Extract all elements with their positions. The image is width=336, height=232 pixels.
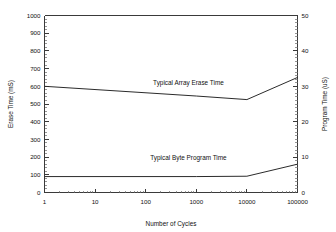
x-tick-label: 10000 [238,198,256,205]
right-tick-label: 30 [302,83,309,90]
left-tick-label: 300 [30,136,41,143]
right-tick-label: 0 [302,189,306,196]
series-annotation-1: Typical Byte Program Time [150,154,227,162]
y-axis-title: Erase Time (mS) [7,80,15,128]
secondary-y-axis-title: Program Time (uS) [321,77,329,131]
chart-background [0,0,336,232]
right-tick-label: 50 [302,12,309,19]
left-tick-label: 700 [30,65,41,72]
right-tick-label: 40 [302,47,309,54]
x-tick-label: 10 [92,198,99,205]
x-tick-label: 100 [141,198,152,205]
left-tick-label: 200 [30,153,41,160]
line-chart: 01002003004005006007008009001000 0102030… [0,0,336,232]
right-tick-label: 10 [302,153,309,160]
left-tick-label: 1000 [27,12,41,19]
left-tick-label: 600 [30,83,41,90]
left-tick-label: 800 [30,47,41,54]
left-tick-label: 0 [37,189,41,196]
right-tick-label: 20 [302,118,309,125]
series-annotation-0: Typical Array Erase Time [153,79,224,87]
left-tick-label: 400 [30,118,41,125]
x-tick-label: 1000 [189,198,203,205]
x-axis-title: Number of Cycles [146,220,197,228]
chart-container: 01002003004005006007008009001000 0102030… [0,0,336,232]
left-tick-label: 900 [30,29,41,36]
x-tick-label: 1 [43,198,47,205]
left-tick-label: 500 [30,100,41,107]
x-tick-label: 100000 [287,198,308,205]
left-tick-label: 100 [30,171,41,178]
